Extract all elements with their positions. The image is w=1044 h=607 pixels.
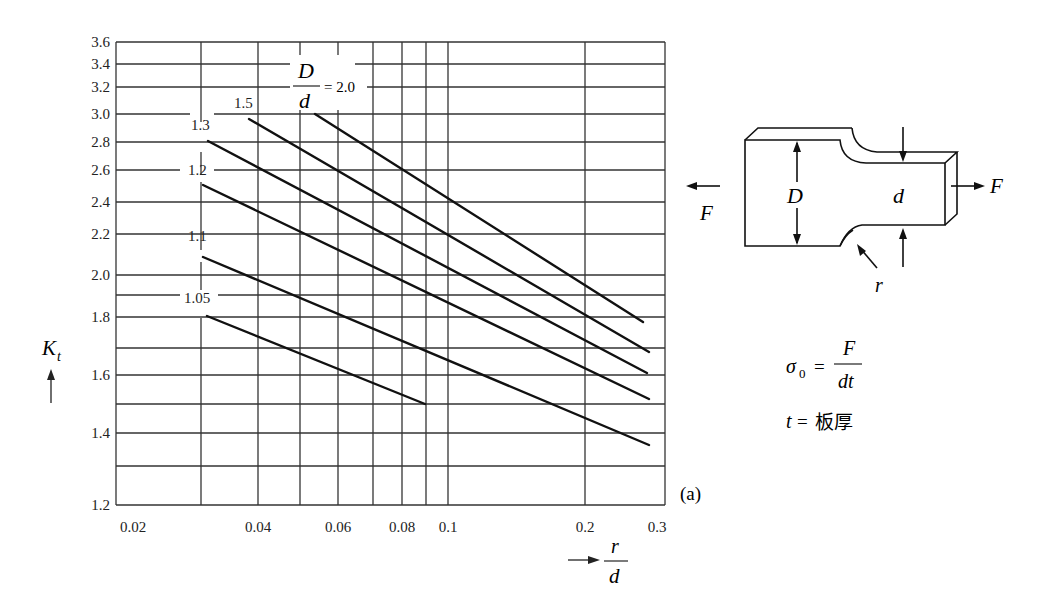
formula-nominal-stress: σ 0 = F dt bbox=[786, 337, 862, 392]
svg-text:=: = bbox=[797, 411, 808, 432]
svg-text:σ: σ bbox=[786, 355, 797, 377]
legend-value: = 2.0 bbox=[324, 79, 355, 95]
svg-text:r: r bbox=[611, 535, 619, 557]
y-axis-ticks: 3.6 3.4 3.2 3.0 2.8 2.6 2.4 2.2 2.0 1.8 … bbox=[91, 34, 110, 513]
curve-label-1.3: 1.3 bbox=[191, 117, 210, 133]
svg-text:F: F bbox=[989, 174, 1003, 198]
svg-text:D: D bbox=[786, 183, 803, 208]
svg-text:0.08: 0.08 bbox=[389, 519, 415, 535]
svg-text:1.4: 1.4 bbox=[91, 425, 110, 441]
y-axis-label: K t bbox=[41, 336, 62, 403]
curve-label-1.05: 1.05 bbox=[184, 290, 210, 306]
svg-text:3.6: 3.6 bbox=[91, 34, 110, 50]
svg-text:3.4: 3.4 bbox=[91, 56, 110, 72]
svg-text:t: t bbox=[786, 410, 792, 432]
svg-text:2.2: 2.2 bbox=[91, 226, 110, 242]
svg-text:0.04: 0.04 bbox=[245, 519, 272, 535]
svg-text:2.4: 2.4 bbox=[91, 194, 110, 210]
svg-text:K: K bbox=[41, 336, 57, 360]
curve-label-1.1: 1.1 bbox=[188, 228, 207, 244]
arrowhead-up-icon bbox=[47, 369, 55, 380]
svg-text:2.0: 2.0 bbox=[91, 267, 110, 283]
svg-text:1.6: 1.6 bbox=[91, 367, 110, 383]
svg-text:d: d bbox=[609, 564, 620, 588]
x-axis-label: r d bbox=[568, 535, 628, 588]
grid bbox=[116, 42, 665, 505]
svg-text:r: r bbox=[875, 274, 883, 296]
svg-text:t: t bbox=[57, 349, 62, 364]
svg-text:1.2: 1.2 bbox=[91, 497, 110, 513]
svg-text:F: F bbox=[842, 337, 856, 359]
svg-text:0.1: 0.1 bbox=[439, 519, 458, 535]
svg-text:1.8: 1.8 bbox=[91, 309, 110, 325]
panel-label: (a) bbox=[680, 483, 701, 505]
svg-text:2.6: 2.6 bbox=[91, 162, 110, 178]
curve-D-d-1.3 bbox=[208, 141, 647, 373]
curve-label-1.5: 1.5 bbox=[234, 95, 253, 111]
svg-text:0.3: 0.3 bbox=[648, 519, 667, 535]
curve-label-1.2: 1.2 bbox=[188, 162, 207, 178]
svg-text:板厚: 板厚 bbox=[815, 412, 853, 433]
curve-D-d-2.0 bbox=[315, 114, 643, 322]
svg-text:0.06: 0.06 bbox=[325, 519, 352, 535]
legend-denominator: d bbox=[299, 88, 311, 113]
svg-text:0.02: 0.02 bbox=[120, 519, 146, 535]
stress-concentration-chart: 1.5 1.3 1.2 1.1 1.05 D d = 2.0 3.6 3.4 3… bbox=[0, 0, 1044, 607]
specimen-diagram bbox=[686, 127, 985, 268]
x-axis-ticks: 0.02 0.04 0.06 0.08 0.1 0.2 0.3 bbox=[120, 519, 667, 535]
svg-text:dt: dt bbox=[838, 370, 854, 392]
curve-D-d-1.05 bbox=[207, 316, 425, 404]
arrowhead-right-icon bbox=[588, 556, 600, 564]
svg-text:2.8: 2.8 bbox=[91, 134, 110, 150]
svg-text:3.2: 3.2 bbox=[91, 79, 110, 95]
svg-text:3.0: 3.0 bbox=[91, 106, 110, 122]
legend-numerator: D bbox=[297, 58, 314, 83]
svg-text:F: F bbox=[699, 201, 713, 225]
svg-text:=: = bbox=[814, 356, 825, 377]
legend-ratio: D d = 2.0 bbox=[293, 58, 355, 113]
svg-text:0: 0 bbox=[799, 366, 806, 381]
svg-text:d: d bbox=[893, 183, 905, 208]
svg-text:0.2: 0.2 bbox=[576, 519, 595, 535]
thickness-definition: t = 板厚 bbox=[786, 410, 853, 433]
